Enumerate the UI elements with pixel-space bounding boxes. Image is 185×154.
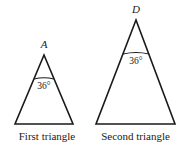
first-triangle-group: A 36°: [15, 38, 73, 124]
second-triangle-angle-label: 36°: [129, 56, 143, 66]
second-triangle-angle-arc: [123, 53, 149, 55]
second-triangle-caption: Second triangle: [90, 130, 181, 143]
second-triangle-group: D 36°: [96, 3, 175, 124]
first-triangle-angle-arc: [34, 78, 54, 79]
first-triangle-caption: First triangle: [7, 130, 87, 143]
first-triangle-angle-label: 36°: [37, 81, 51, 91]
second-triangle-outline: [96, 20, 175, 124]
second-triangle-apex-label: D: [131, 3, 140, 15]
geometry-figure: A 36° D 36° First triangle Second triang…: [0, 0, 185, 154]
first-triangle-apex-label: A: [40, 38, 48, 50]
